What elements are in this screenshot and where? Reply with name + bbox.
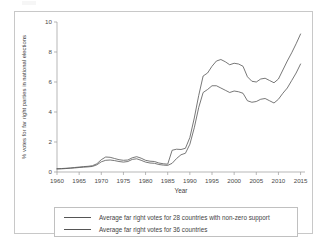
legend-key-line: [64, 217, 91, 218]
x-tick-label: 1990: [183, 177, 197, 184]
y-axis-ticks: 0246810: [45, 18, 57, 175]
y-tick-label: 8: [49, 48, 53, 55]
x-axis-ticks: 1960196519701975198019851990199520002005…: [50, 172, 308, 184]
chart-series-line: [57, 34, 301, 169]
y-tick-label: 4: [49, 108, 53, 115]
x-tick-label: 1980: [139, 177, 153, 184]
legend-key-line: [64, 229, 91, 230]
scan-artifact: [22, 1, 36, 5]
x-tick-label: 2010: [272, 177, 286, 184]
chart-legend: Average far right votes for 28 countries…: [54, 207, 298, 237]
x-tick-label: 2000: [227, 177, 241, 184]
x-tick-label: 1985: [161, 177, 175, 184]
chart-series-layer: [57, 34, 301, 169]
x-tick-label: 2015: [294, 177, 308, 184]
chart-axes: 0246810 19601965197019751980198519901995…: [45, 18, 308, 184]
x-axis-title: Year: [175, 187, 189, 194]
legend-item: Average far right votes for 28 countries…: [55, 211, 297, 223]
y-tick-label: 6: [49, 78, 53, 85]
legend-item-label: Average far right votes for 36 countries: [99, 226, 207, 233]
legend-item: Average far right votes for 36 countries: [55, 223, 297, 235]
x-tick-label: 1965: [72, 177, 86, 184]
y-tick-label: 10: [45, 18, 52, 25]
x-tick-label: 1970: [94, 177, 108, 184]
y-tick-label: 0: [49, 168, 53, 175]
x-tick-label: 2005: [249, 177, 263, 184]
y-axis-title: % votes for far right parties in nationa…: [21, 35, 27, 159]
x-tick-label: 1995: [205, 177, 219, 184]
chart-plot-area: 0246810 19601965197019751980198519901995…: [15, 12, 312, 233]
chart-figure: 0246810 19601965197019751980198519901995…: [14, 11, 313, 234]
x-tick-label: 1960: [50, 177, 64, 184]
chart-series-line: [57, 64, 301, 169]
x-tick-label: 1975: [117, 177, 131, 184]
y-tick-label: 2: [49, 138, 53, 145]
legend-item-label: Average far right votes for 28 countries…: [99, 214, 270, 221]
